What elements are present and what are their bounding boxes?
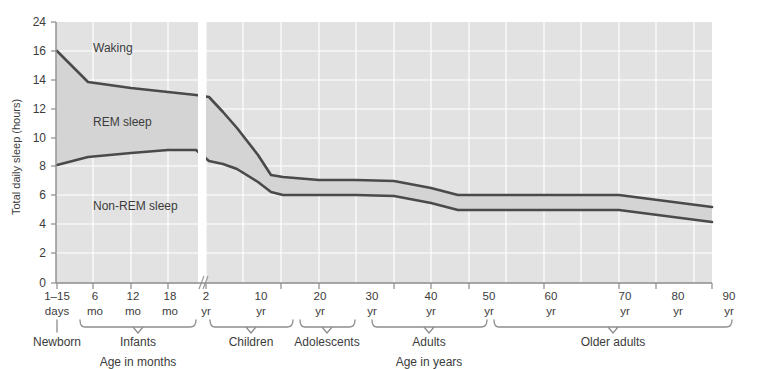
sleep-chart-figure: 24 16 14 12 10 8 6 4 2 0 Total daily sle… xyxy=(0,0,757,369)
y-tick-8: 8 xyxy=(39,159,46,173)
x-tick-7-line1: 30 xyxy=(366,290,379,302)
x-tick-12-line2: yr xyxy=(673,305,683,317)
x-tick-2-line1: 12 xyxy=(127,290,140,302)
x-tick-8-line1: 40 xyxy=(425,290,438,302)
x-tick-6-line1: 20 xyxy=(314,290,327,302)
x-axis-break-strip xyxy=(198,22,206,283)
y-tick-4: 4 xyxy=(39,217,46,231)
x-tick-4-line1: 2 xyxy=(203,290,209,302)
x-tick-9-line2: yr xyxy=(484,305,494,317)
x-tick-11-line1: 70 xyxy=(619,290,632,302)
x-tick-1-line1: 6 xyxy=(92,290,98,302)
group-label-adults: Adults xyxy=(412,335,445,349)
x-tick-8-line2: yr xyxy=(426,305,436,317)
x-tick-11-line2: yr xyxy=(620,305,630,317)
age-group-brackets xyxy=(57,320,732,332)
x-axis-ticks xyxy=(57,283,712,289)
x-tick-4-line2: yr xyxy=(201,305,211,317)
group-label-newborn: Newborn xyxy=(33,335,81,349)
y-tick-16: 16 xyxy=(33,44,47,58)
group-label-older-adults: Older adults xyxy=(581,335,646,349)
bracket-older-adults xyxy=(494,320,732,327)
group-label-children: Children xyxy=(229,335,274,349)
bracket-infants xyxy=(80,320,196,327)
x-tick-10-line2: yr xyxy=(546,305,556,317)
annotation-non-rem-sleep: Non-REM sleep xyxy=(93,199,178,213)
age-group-labels: Newborn Infants Children Adolescents Adu… xyxy=(33,335,645,349)
caption-age-in-months: Age in months xyxy=(100,355,177,369)
x-tick-0-line2: days xyxy=(45,305,70,317)
x-tick-9-line1: 50 xyxy=(483,290,496,302)
x-tick-13-line1: 90 xyxy=(723,290,736,302)
y-tick-12: 12 xyxy=(33,102,47,116)
y-tick-2: 2 xyxy=(39,246,46,260)
x-tick-13-line2: yr xyxy=(724,305,734,317)
x-tick-10-line1: 60 xyxy=(545,290,558,302)
y-tick-10: 10 xyxy=(33,131,47,145)
x-tick-7-line2: yr xyxy=(367,305,377,317)
y-axis-ticks xyxy=(51,22,56,283)
annotation-rem-sleep: REM sleep xyxy=(93,115,152,129)
x-tick-3-line2: mo xyxy=(162,305,178,317)
group-label-adolescents: Adolescents xyxy=(294,335,359,349)
x-tick-1-line2: mo xyxy=(87,305,103,317)
x-tick-5-line1: 10 xyxy=(255,290,268,302)
y-tick-14: 14 xyxy=(33,73,47,87)
x-tick-2-line2: mo xyxy=(125,305,141,317)
caption-age-in-years: Age in years xyxy=(396,355,463,369)
x-tick-5-line2: yr xyxy=(256,305,266,317)
bracket-adults xyxy=(372,320,487,327)
bracket-adolescents xyxy=(300,320,355,327)
x-axis-tick-labels: 1–15 days 6 mo 12 mo 18 mo 2 yr 10 yr 20… xyxy=(44,290,735,317)
x-tick-6-line2: yr xyxy=(315,305,325,317)
plot-background xyxy=(56,22,712,283)
x-tick-12-line1: 80 xyxy=(672,290,685,302)
x-tick-0-line1: 1–15 xyxy=(44,290,70,302)
annotation-waking: Waking xyxy=(93,41,133,55)
y-tick-24: 24 xyxy=(33,15,47,29)
y-tick-0: 0 xyxy=(39,276,46,290)
bracket-children xyxy=(210,320,293,327)
x-tick-3-line1: 18 xyxy=(164,290,177,302)
y-tick-6: 6 xyxy=(39,188,46,202)
age-group-bracket-pointers xyxy=(133,327,618,333)
group-label-infants: Infants xyxy=(120,335,156,349)
y-axis-title: Total daily sleep (hours) xyxy=(10,99,22,215)
y-axis-tick-labels: 24 16 14 12 10 8 6 4 2 0 xyxy=(33,15,47,290)
